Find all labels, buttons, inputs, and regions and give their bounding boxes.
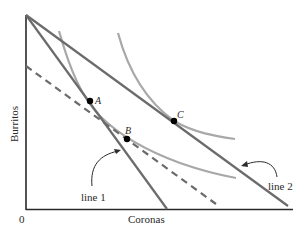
origin-label: 0 — [19, 213, 25, 225]
point-b-label: B — [125, 125, 131, 136]
line-1-arrow — [92, 151, 118, 186]
indifference-curve-high — [118, 33, 235, 139]
dashed-budget-line — [26, 66, 216, 204]
point-a-marker — [87, 98, 93, 104]
point-b-marker — [124, 136, 130, 142]
line-2-label: line 2 — [268, 180, 293, 192]
point-a-label: A — [94, 95, 102, 106]
line-1-arrowhead-icon — [114, 149, 121, 154]
budget-line-2 — [26, 15, 288, 206]
x-axis-label: Coronas — [128, 213, 165, 225]
budget-line-1 — [26, 15, 167, 209]
line-2-arrow — [244, 162, 277, 177]
line-2-arrowhead-icon — [241, 161, 248, 167]
line-1-label: line 1 — [81, 191, 106, 203]
point-c-label: C — [177, 109, 184, 120]
indifference-budget-diagram: A B C line 1 line 2 0 Coronas Burritos — [0, 0, 307, 234]
y-axis-label: Burritos — [8, 106, 20, 142]
